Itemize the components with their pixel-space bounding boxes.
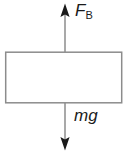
buoyant-force-label: FB (75, 2, 93, 19)
free-body-diagram: FB mg (0, 0, 129, 154)
buoyant-force-symbol: F (75, 1, 85, 20)
diagram-canvas (0, 0, 129, 154)
body-rectangle (6, 52, 122, 103)
buoyant-force-subscript: B (85, 9, 92, 21)
weight-force-label: mg (74, 107, 98, 124)
